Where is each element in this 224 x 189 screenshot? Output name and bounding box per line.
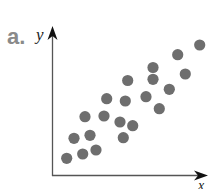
data-point bbox=[77, 148, 88, 159]
x-axis bbox=[52, 171, 208, 181]
data-point bbox=[101, 93, 112, 104]
data-point bbox=[172, 49, 183, 60]
data-point bbox=[68, 133, 79, 144]
data-point bbox=[127, 120, 138, 131]
data-point bbox=[90, 144, 101, 155]
y-axis-label: y bbox=[34, 25, 44, 44]
data-point bbox=[164, 84, 175, 95]
data-point bbox=[61, 153, 72, 164]
data-point bbox=[180, 68, 191, 79]
data-point bbox=[114, 116, 125, 127]
y-axis bbox=[48, 26, 58, 176]
data-point bbox=[194, 39, 205, 50]
data-point bbox=[98, 110, 109, 121]
data-points bbox=[61, 39, 205, 163]
data-point bbox=[140, 91, 151, 102]
data-point bbox=[118, 132, 129, 143]
data-point bbox=[147, 74, 158, 85]
x-axis-label: x bbox=[197, 178, 205, 189]
data-point bbox=[120, 95, 131, 106]
data-point bbox=[147, 62, 158, 73]
data-point bbox=[122, 75, 133, 86]
scatter-plot: y x bbox=[0, 0, 224, 189]
data-point bbox=[79, 111, 90, 122]
data-point bbox=[154, 103, 165, 114]
data-point bbox=[84, 130, 95, 141]
